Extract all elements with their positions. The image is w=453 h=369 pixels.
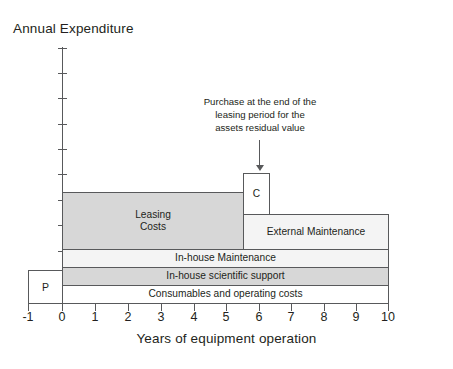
- bar-external-maintenance: External Maintenance: [243, 214, 389, 250]
- x-axis-label: 8: [309, 310, 339, 324]
- x-axis-label: 5: [211, 310, 241, 324]
- x-axis-label: 0: [47, 310, 77, 324]
- x-axis-label: 9: [341, 310, 371, 324]
- bar-in-house-scientific-support: In-house scientific support: [62, 267, 389, 286]
- x-axis-label: -1: [13, 310, 43, 324]
- x-axis-label: 2: [113, 310, 143, 324]
- y-axis-tick: [58, 73, 67, 74]
- x-axis-label: 1: [80, 310, 110, 324]
- bar-purchase-p: P: [28, 270, 63, 304]
- x-axis-label: 7: [276, 310, 306, 324]
- y-axis-tick: [58, 48, 67, 49]
- purchase-annotation-line2: leasing period for the: [193, 109, 327, 122]
- x-axis-label: 10: [373, 310, 403, 324]
- y-axis-tick: [58, 174, 67, 175]
- annotation-arrow-shaft: [259, 140, 260, 167]
- x-axis-label: 3: [146, 310, 176, 324]
- bar-capital-purchase-c: C: [243, 173, 270, 215]
- x-axis-label: 4: [179, 310, 209, 324]
- y-axis-title: Annual Expenditure: [13, 21, 134, 36]
- bar-in-house-maintenance: In-house Maintenance: [62, 249, 389, 268]
- y-axis-tick: [58, 149, 67, 150]
- purchase-annotation-line1: Purchase at the end of the: [193, 96, 327, 109]
- bar-leasing-costs: Leasing Costs: [62, 192, 244, 250]
- bar-leasing-costs-label-line1: Leasing: [135, 209, 171, 221]
- bar-leasing-costs-label-line2: Costs: [140, 221, 166, 233]
- x-axis-label: 6: [244, 310, 274, 324]
- bar-consumables: Consumables and operating costs: [62, 285, 389, 304]
- y-axis-tick: [58, 98, 67, 99]
- x-axis-title: Years of equipment operation: [0, 331, 453, 346]
- purchase-annotation: Purchase at the end of the leasing perio…: [193, 96, 327, 134]
- purchase-annotation-line3: assets residual value: [193, 122, 327, 135]
- annotation-arrow-head-icon: [256, 165, 264, 171]
- chart-canvas: Annual Expenditure -1 0 1 2 3 4 5 6 7 8 …: [0, 0, 453, 369]
- y-axis-tick: [58, 124, 67, 125]
